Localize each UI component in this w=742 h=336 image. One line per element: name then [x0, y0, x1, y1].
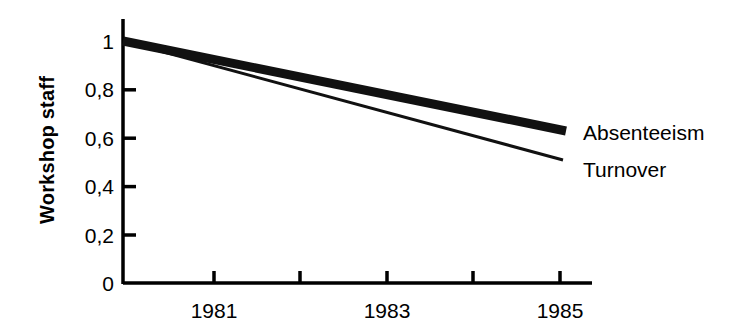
y-tick-marks	[123, 90, 136, 235]
x-tick-marks	[214, 271, 560, 283]
chart-figure: Workshop staff 1 0,8 0,6 0,4 0,2 0 1981 …	[0, 0, 742, 336]
series-label-turnover: Turnover	[583, 159, 666, 180]
series-line-absenteeism	[123, 41, 566, 131]
series-label-absenteeism: Absenteeism	[583, 122, 704, 143]
